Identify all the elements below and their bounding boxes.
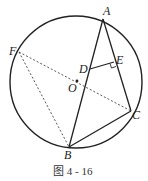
label-c: C: [132, 108, 141, 122]
diagram-canvas: A F E D O C B 图 4 - 16: [0, 0, 148, 181]
label-e: E: [115, 53, 124, 67]
label-b: B: [64, 148, 72, 162]
segment-fb-dashed: [19, 52, 69, 147]
label-o: O: [68, 81, 77, 95]
label-a: A: [102, 4, 111, 18]
label-d: D: [78, 62, 88, 76]
figure-caption: 图 4 - 16: [53, 165, 93, 177]
geometry-figure: A F E D O C B 图 4 - 16: [0, 0, 148, 181]
label-f: F: [8, 44, 17, 58]
